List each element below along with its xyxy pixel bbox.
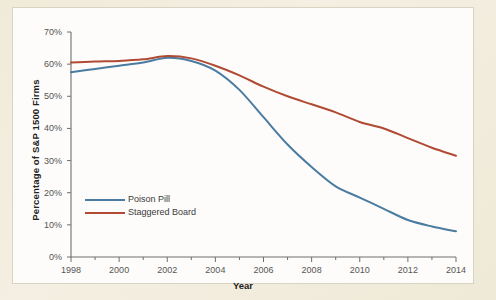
- y-tick-marks: [67, 32, 71, 257]
- chart-panel: Percentage of S&P 1500 Firms Year 0%10%2…: [12, 7, 474, 284]
- data-series-group: [71, 56, 456, 231]
- series-line-staggered-board: [71, 56, 456, 156]
- axis-lines: [71, 32, 456, 257]
- figure-root: Percentage of S&P 1500 Firms Year 0%10%2…: [0, 0, 496, 300]
- legend-swatch-group: [85, 200, 125, 213]
- line-chart-plot: [13, 8, 475, 285]
- x-tick-marks: [71, 257, 456, 262]
- series-line-poison-pill: [71, 58, 456, 232]
